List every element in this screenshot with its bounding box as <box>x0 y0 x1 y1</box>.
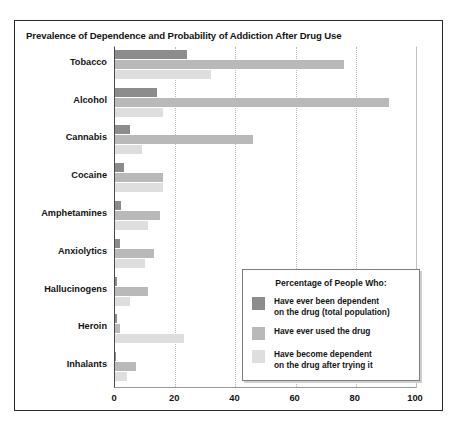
bar <box>115 88 157 97</box>
chart-figure: Prevalence of Dependence and Probability… <box>14 20 443 411</box>
bar <box>115 211 160 220</box>
y-axis-tick-label: Alcohol <box>73 95 107 105</box>
bar <box>115 352 116 361</box>
bar <box>115 259 145 268</box>
x-axis-tick-label: 100 <box>407 392 423 403</box>
bar <box>115 314 117 323</box>
bar <box>115 239 120 248</box>
page-title: Prevalence of Dependence and Probability… <box>26 30 342 41</box>
bar <box>115 50 187 59</box>
bar <box>115 334 184 343</box>
bar-group: Amphetamines <box>115 198 416 236</box>
legend-items: Have ever been dependenton the drug (tot… <box>252 296 410 370</box>
bar <box>115 163 124 172</box>
bar <box>115 145 142 154</box>
bar-group: Alcohol <box>115 85 416 123</box>
y-axis-tick-label: Amphetamines <box>41 208 107 218</box>
x-axis-tick-label: 40 <box>229 392 239 403</box>
bar-group: Cannabis <box>115 122 416 160</box>
bar <box>115 287 148 296</box>
legend-item: Have ever been dependenton the drug (tot… <box>252 296 410 317</box>
legend-title: Percentage of People Who: <box>252 278 410 288</box>
legend-label: Have ever been dependenton the drug (tot… <box>274 296 390 317</box>
bar-group: Cocaine <box>115 160 416 198</box>
x-axis-tick-label: 0 <box>111 392 116 403</box>
bar <box>115 173 163 182</box>
bar <box>115 125 130 134</box>
y-axis-tick-label: Hallucinogens <box>44 284 107 294</box>
bar <box>115 277 117 286</box>
x-axis-tick-label: 80 <box>350 392 360 403</box>
legend-swatch <box>252 350 265 363</box>
bar <box>115 362 136 371</box>
chart-legend: Percentage of People Who: Have ever been… <box>242 269 420 381</box>
legend-swatch <box>252 327 265 340</box>
bar <box>115 108 163 117</box>
y-axis-tick-label: Cannabis <box>66 132 107 142</box>
bar <box>115 183 163 192</box>
bar <box>115 249 154 258</box>
bar <box>115 221 148 230</box>
x-axis-tick-label: 20 <box>169 392 179 403</box>
x-axis-tick-label: 60 <box>289 392 299 403</box>
bar-group: Tobacco <box>115 47 416 85</box>
y-axis-tick-label: Heroin <box>78 321 107 331</box>
bar <box>115 60 344 69</box>
legend-item: Have ever used the drug <box>252 326 410 340</box>
legend-swatch <box>252 297 265 310</box>
y-axis-tick-label: Tobacco <box>70 57 107 67</box>
bar <box>115 98 389 107</box>
y-axis-tick-label: Cocaine <box>71 170 107 180</box>
legend-label: Have become dependenton the drug after t… <box>274 349 373 370</box>
legend-label: Have ever used the drug <box>274 326 370 337</box>
y-axis-tick-label: Anxiolytics <box>58 246 107 256</box>
y-axis-tick-label: Inhalants <box>67 359 107 369</box>
bar <box>115 135 253 144</box>
x-axis: 020406080100 <box>114 390 417 408</box>
bar <box>115 372 127 381</box>
legend-item: Have become dependenton the drug after t… <box>252 349 410 370</box>
bar <box>115 297 130 306</box>
bar <box>115 201 121 210</box>
bar <box>115 70 211 79</box>
bar <box>115 324 120 333</box>
